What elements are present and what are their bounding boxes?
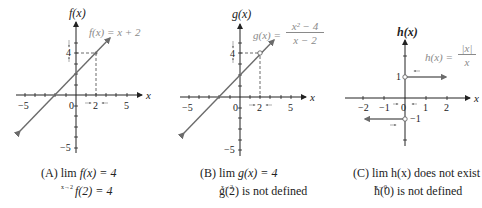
point-2-4 xyxy=(95,52,98,55)
tick-label: −5 xyxy=(60,141,71,155)
tick-label: 2 xyxy=(257,101,262,115)
tick-label: 1 xyxy=(396,70,401,84)
caption-expression: h(x) does not exist xyxy=(391,166,480,180)
caption-expression: g(x) = 4 xyxy=(238,166,277,180)
caption-tag: (A) xyxy=(41,166,58,180)
panel-c-ylabel: h(x) xyxy=(397,25,418,39)
tick-label: −5 xyxy=(18,99,29,113)
tick-label: −1 xyxy=(410,112,421,126)
tick-label: 1 xyxy=(423,101,428,115)
tick-label: −5 xyxy=(224,143,235,157)
tick-label: 4 xyxy=(230,47,235,61)
panel-a-ylabel: f(x) xyxy=(69,6,86,20)
tick-label: 5 xyxy=(124,99,129,113)
tick-label: 2 xyxy=(93,99,98,113)
tick-label: −5 xyxy=(182,101,193,115)
lim-text: lim xyxy=(372,166,388,180)
tick-label: 2 xyxy=(444,101,449,115)
caption-expression: f(x) = 4 xyxy=(80,166,117,180)
tick-label: 0 xyxy=(401,101,406,115)
caption-b-line2: g(2) is not defined xyxy=(219,184,307,198)
panel-c-function-numerator: |x| xyxy=(458,42,476,55)
panel-a-function-label: f(x) = x + 2 xyxy=(89,25,141,39)
panel-c-xlabel: x xyxy=(474,91,479,105)
panel-b-function-numerator: x² − 4 xyxy=(286,20,324,33)
caption-c-line2: h(0) is not defined xyxy=(374,184,462,198)
panel-c-function-lhs: h(x) = xyxy=(425,50,453,64)
tick-label: 0 xyxy=(233,101,238,115)
open-point-0-neg1 xyxy=(403,117,407,121)
panel-a-graph xyxy=(16,22,142,153)
caption-a-subscript: x→2 xyxy=(61,180,73,194)
panel-c-function-denominator: x xyxy=(458,56,476,68)
tick-label: −2 xyxy=(358,101,369,115)
caption-tag: (C) xyxy=(353,166,369,180)
tick-label: 4 xyxy=(66,46,71,60)
lim-text: lim xyxy=(61,166,77,180)
panel-b-ylabel: g(x) xyxy=(232,7,251,21)
caption-b: (B) lim g(x) = 4 xyxy=(200,166,277,180)
caption-a-line2: f(2) = 4 xyxy=(75,184,112,198)
panel-a-xlabel: x xyxy=(146,88,151,102)
caption-tag: (B) xyxy=(200,166,216,180)
lim-text: lim xyxy=(219,166,235,180)
caption-a: (A) lim f(x) = 4 xyxy=(41,166,116,180)
caption-c: (C) lim h(x) does not exist xyxy=(353,166,480,180)
tick-label: 0 xyxy=(69,99,74,113)
open-point-0-1 xyxy=(403,75,407,79)
panel-b-function-lhs: g(x) = xyxy=(253,28,281,42)
panel-b-function-denominator: x − 2 xyxy=(286,34,324,46)
panel-b-xlabel: x xyxy=(310,90,315,104)
tick-label: 5 xyxy=(288,101,293,115)
tick-label: −1 xyxy=(379,101,390,115)
open-point-2-4 xyxy=(258,51,262,55)
